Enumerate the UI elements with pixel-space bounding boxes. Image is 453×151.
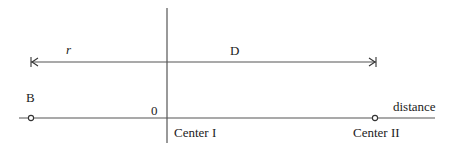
label-d: D [230, 43, 239, 58]
label-center-ii: Center II [353, 125, 400, 140]
distance-diagram: r D B 0 Center I Center II distance [0, 0, 453, 151]
label-r: r [66, 42, 72, 57]
label-distance: distance [393, 99, 436, 114]
label-center-i: Center I [174, 125, 216, 140]
point-b-marker-icon [28, 115, 33, 120]
center-ii-marker-icon [372, 115, 377, 120]
label-origin: 0 [151, 103, 158, 118]
label-b: B [26, 90, 35, 105]
